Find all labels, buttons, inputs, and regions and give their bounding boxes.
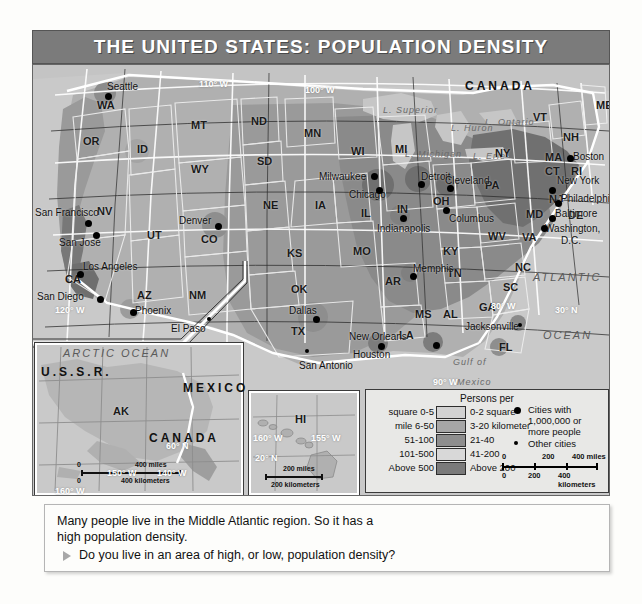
- legend-row-right-2: 21-40: [470, 434, 494, 445]
- city-dot-major-16: [410, 273, 417, 280]
- legend-scale-miles-numbers: 0 200 400 miles: [502, 452, 606, 462]
- scale-km-200: 200: [528, 471, 541, 480]
- legend-swatch-4: [436, 462, 466, 475]
- legend-city-text-0-1: 1,000,000 or: [514, 415, 610, 426]
- city-dot-major-2: [93, 232, 100, 239]
- city-dot-major-4: [97, 296, 104, 303]
- ak-scale-miles-unit: 400 miles: [135, 461, 167, 468]
- map-title-bar: THE UNITED STATES: POPULATION DENSITY: [32, 30, 610, 64]
- city-dot-major-15: [443, 207, 450, 214]
- city-dot-major-19: [555, 200, 562, 207]
- hawaii-inset-map[interactable]: 200 miles 200 kilometers: [249, 391, 359, 495]
- legend-city-dot-major-icon: [514, 407, 521, 414]
- map-panel[interactable]: 0 400 miles 0 400 kilometers: [32, 64, 610, 496]
- legend-swatch-3: [436, 448, 466, 461]
- alaska-inset-map[interactable]: 0 400 miles 0 400 kilometers: [35, 343, 243, 495]
- city-dot-major-6: [215, 223, 222, 230]
- page-title: THE UNITED STATES: POPULATION DENSITY: [94, 36, 549, 58]
- map-legend[interactable]: Persons per square 0-50-2 squaremile 6-5…: [365, 389, 609, 493]
- city-dot-minor-1: [305, 349, 309, 353]
- legend-city-text-0-0: Cities with: [514, 404, 610, 415]
- caption-question: Do you live in an area of high, or low, …: [79, 547, 395, 563]
- city-dot-major-14: [400, 215, 407, 222]
- caption-line-2: high population density.: [57, 529, 597, 545]
- city-dot-major-20: [549, 215, 556, 222]
- scale-km-0: 0: [502, 471, 506, 480]
- hawaii-scale-bar: 200 miles 200 kilometers: [265, 465, 349, 490]
- hi-scale-km-unit: 200 kilometers: [271, 481, 320, 488]
- city-dot-major-0: [105, 93, 112, 100]
- legend-row-left-0: square 0-5: [368, 406, 434, 417]
- city-dot-minor-0: [207, 317, 211, 321]
- legend-city-text-1-0: Other cities: [514, 438, 610, 449]
- legend-swatch-2: [436, 434, 466, 447]
- triangle-bullet-icon: [63, 551, 71, 561]
- ak-scale-km-unit: 400 kilometers: [121, 477, 170, 484]
- city-dot-major-18: [549, 187, 556, 194]
- legend-row-right-3: 41-200: [470, 448, 500, 459]
- city-dot-minor-2: [518, 323, 522, 327]
- caption-question-row: Do you live in an area of high, or low, …: [57, 547, 597, 563]
- legend-swatch-1: [436, 420, 466, 433]
- legend-scale-ruler: [502, 463, 598, 470]
- legend-city-text-0-2: more people: [514, 426, 610, 437]
- legend-scale-km-numbers: 0 200 400 kilometers: [502, 471, 606, 481]
- city-dot-major-3: [77, 271, 84, 278]
- city-dot-major-1: [85, 220, 92, 227]
- city-dot-major-11: [376, 187, 383, 194]
- legend-city-dot-minor-icon: [514, 441, 518, 445]
- legend-city-entry-1: Other cities: [514, 438, 610, 449]
- legend-row-left-1: mile 6-50: [368, 420, 434, 431]
- city-dot-major-21: [541, 225, 548, 232]
- caption-box: Many people live in the Middle Atlantic …: [44, 504, 610, 572]
- map-page: THE UNITED STATES: POPULATION DENSITY: [0, 0, 642, 604]
- scale-miles-200: 200: [542, 452, 555, 461]
- legend-title: Persons per: [366, 393, 608, 404]
- hi-scale-miles-unit: 200 miles: [283, 465, 315, 472]
- caption-line-1: Many people live in the Middle Atlantic …: [57, 513, 597, 529]
- city-dot-major-5: [130, 309, 137, 316]
- scale-miles-0: 0: [502, 452, 506, 461]
- scale-km-400: 400 kilometers: [558, 471, 606, 489]
- city-dot-major-13: [447, 185, 454, 192]
- city-dot-major-8: [378, 343, 385, 350]
- alaska-scale-bar: 0 400 miles 0 400 kilometers: [81, 461, 193, 486]
- city-dot-major-7: [313, 316, 320, 323]
- city-dot-major-17: [567, 155, 574, 162]
- scale-miles-400: 400 miles: [572, 452, 606, 461]
- ak-scale-miles-zero: 0: [77, 461, 81, 468]
- legend-row-left-2: 51-100: [368, 434, 434, 445]
- legend-row-right-0: 0-2 square: [470, 406, 515, 417]
- city-dot-major-10: [371, 173, 378, 180]
- legend-scale-bar: 0 200 400 miles 0 200 400 kilometers: [502, 452, 606, 481]
- ak-scale-km-zero: 0: [77, 477, 81, 484]
- legend-swatch-0: [436, 406, 466, 419]
- city-dot-major-9: [433, 342, 440, 349]
- legend-row-left-4: Above 500: [368, 462, 434, 473]
- legend-row-left-3: 101-500: [368, 448, 434, 459]
- legend-city-entry-0: Cities with1,000,000 ormore people: [514, 404, 610, 437]
- legend-city-key: Cities with1,000,000 ormore peopleOther …: [514, 404, 610, 450]
- city-dot-major-12: [418, 181, 425, 188]
